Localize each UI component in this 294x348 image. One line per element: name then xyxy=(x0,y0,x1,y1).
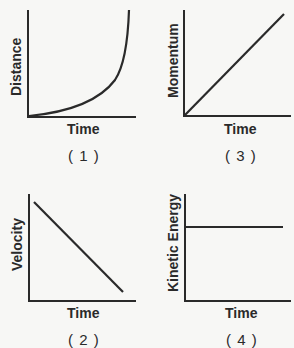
graph-1-x-label: Time xyxy=(67,121,99,137)
graph-2-axes xyxy=(29,194,136,301)
graph-3-line xyxy=(185,14,284,115)
graph-3-panel: Momentum Time ( 3 ) xyxy=(147,0,294,174)
graph-1-panel: Distance Time ( 1 ) xyxy=(0,0,147,174)
graph-3-caption: ( 3 ) xyxy=(225,147,257,164)
graph-4-caption: ( 4 ) xyxy=(226,331,258,348)
graph-2-y-label: Velocity xyxy=(9,218,25,271)
graph-2-caption: ( 2 ) xyxy=(68,331,100,348)
graph-4-y-label: Kinetic Energy xyxy=(165,194,181,292)
graph-4-panel: Kinetic Energy Time ( 4 ) xyxy=(147,174,294,348)
graph-1-curve xyxy=(29,10,129,116)
graph-1-caption: ( 1 ) xyxy=(68,147,100,164)
graph-3-x-label: Time xyxy=(224,121,256,137)
graph-2-line xyxy=(34,202,123,292)
graph-1-y-label: Distance xyxy=(8,38,24,96)
graph-4-axes xyxy=(185,194,291,301)
graph-3-y-label: Momentum xyxy=(165,23,181,98)
graph-1-axes xyxy=(28,10,136,117)
graph-4-x-label: Time xyxy=(225,305,257,321)
graph-2-panel: Velocity Time ( 2 ) xyxy=(0,174,147,348)
graph-2-x-label: Time xyxy=(67,305,99,321)
